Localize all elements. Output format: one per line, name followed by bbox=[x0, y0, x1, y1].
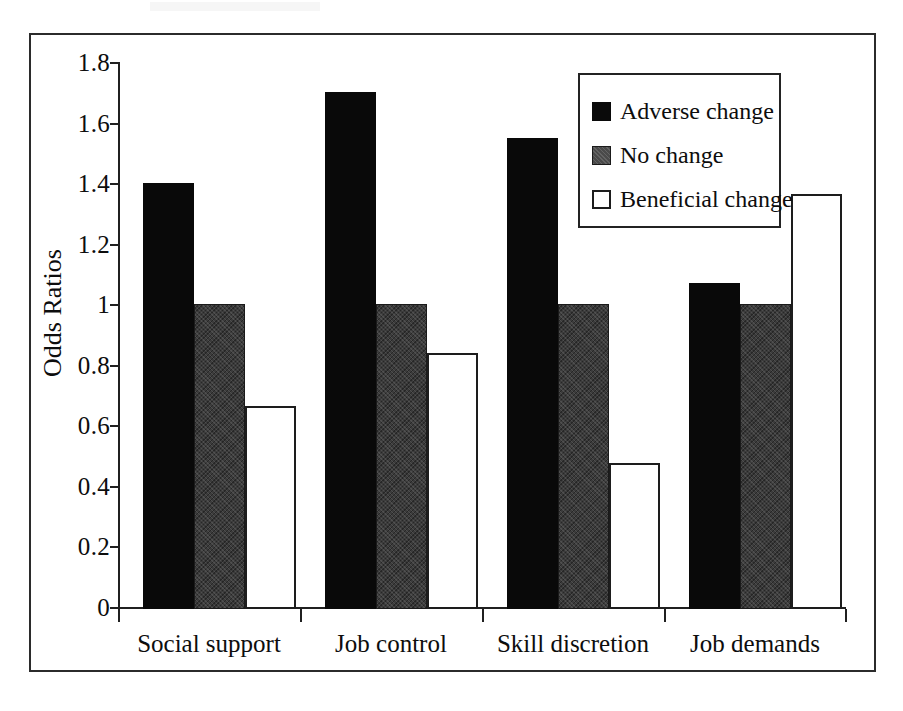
bar-skill-discretion-adverse bbox=[507, 138, 558, 609]
y-tick-label-1point2: 1.2 bbox=[38, 232, 110, 257]
legend-item-adverse-change: Adverse change bbox=[592, 89, 779, 133]
y-tick-label-0: 0 bbox=[38, 595, 110, 620]
x-tick-1 bbox=[300, 609, 302, 622]
y-tick-4 bbox=[110, 365, 119, 367]
bar-social-support-no-change bbox=[194, 304, 245, 609]
bar-social-support-adverse bbox=[143, 183, 194, 609]
x-category-label-social-support: Social support bbox=[118, 630, 300, 658]
bar-job-control-adverse bbox=[325, 92, 376, 609]
y-tick-6 bbox=[110, 244, 119, 246]
bar-skill-discretion-beneficial bbox=[609, 463, 660, 609]
y-tick-label-0point2: 0.2 bbox=[38, 534, 110, 559]
y-tick-9 bbox=[110, 62, 119, 64]
y-tick-label-1-wrap: 0.2 bbox=[20, 534, 110, 559]
y-tick-5 bbox=[110, 304, 119, 306]
legend-label-beneficial-change: Beneficial change bbox=[620, 187, 793, 211]
bar-job-control-beneficial bbox=[427, 353, 478, 609]
x-tick-3 bbox=[664, 609, 666, 622]
y-tick-3 bbox=[110, 425, 119, 427]
bar-job-control-no-change bbox=[376, 304, 427, 609]
y-tick-label-0point4: 0.4 bbox=[38, 474, 110, 499]
y-tick-label-1point4: 1.4 bbox=[38, 171, 110, 196]
y-tick-label-0point6: 0.6 bbox=[38, 413, 110, 438]
y-tick-label-9-wrap: 1.8 bbox=[20, 50, 110, 75]
x-category-label-job-control: Job control bbox=[300, 630, 482, 658]
y-tick-8 bbox=[110, 123, 119, 125]
x-category-label-job-demands: Job demands bbox=[664, 630, 846, 658]
x-tick-0 bbox=[118, 609, 120, 622]
y-tick-label-1point8: 1.8 bbox=[38, 50, 110, 75]
y-tick-label-4-wrap: 0.8 bbox=[20, 353, 110, 378]
y-tick-label-0-wrap: 0 bbox=[20, 595, 110, 620]
legend-item-beneficial-change: Beneficial change bbox=[592, 177, 779, 221]
y-tick-label-5-wrap: 1 bbox=[20, 292, 110, 317]
y-tick-label-1: 1 bbox=[38, 292, 110, 317]
x-tick-2 bbox=[482, 609, 484, 622]
y-tick-1 bbox=[110, 546, 119, 548]
legend-swatch-adverse-icon bbox=[592, 102, 611, 121]
legend-swatch-beneficial-icon bbox=[592, 190, 611, 209]
y-tick-label-6-wrap: 1.2 bbox=[20, 232, 110, 257]
y-tick-label-7-wrap: 1.4 bbox=[20, 171, 110, 196]
legend-label-adverse-change: Adverse change bbox=[620, 99, 774, 123]
legend-item-no-change: No change bbox=[592, 133, 779, 177]
bar-chart: Odds Ratios 0 0.2 0.4 0.6 0.8 1 1.2 1.4 … bbox=[0, 0, 903, 711]
y-tick-label-1point6: 1.6 bbox=[38, 111, 110, 136]
bar-job-demands-adverse bbox=[689, 283, 740, 609]
y-tick-label-8-wrap: 1.6 bbox=[20, 111, 110, 136]
y-tick-label-0point8: 0.8 bbox=[38, 353, 110, 378]
bar-skill-discretion-no-change bbox=[558, 304, 609, 609]
y-tick-7 bbox=[110, 183, 119, 185]
legend-label-no-change: No change bbox=[620, 143, 723, 167]
y-axis-line bbox=[118, 62, 120, 609]
bar-job-demands-no-change bbox=[740, 304, 791, 609]
bar-social-support-beneficial bbox=[245, 406, 296, 609]
bar-job-demands-beneficial bbox=[791, 194, 842, 609]
y-tick-2 bbox=[110, 486, 119, 488]
x-tick-4 bbox=[845, 609, 847, 622]
y-tick-label-2-wrap: 0.4 bbox=[20, 474, 110, 499]
x-category-label-skill-discretion: Skill discretion bbox=[482, 630, 664, 658]
legend-swatch-no-change-icon bbox=[592, 146, 611, 165]
y-tick-label-3-wrap: 0.6 bbox=[20, 413, 110, 438]
chart-legend: Adverse change No change Beneficial chan… bbox=[578, 73, 781, 228]
